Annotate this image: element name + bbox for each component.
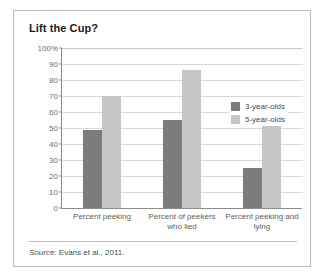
bar-3-year-olds bbox=[163, 120, 182, 208]
chart-plot-wrapper: 100%9080706050403020100 Percent peekingP… bbox=[14, 42, 312, 228]
source-note: Source: Evans et al., 2011. bbox=[29, 248, 124, 257]
y-axis-tick-label: 100% bbox=[38, 44, 58, 53]
page-title: Lift the Cup? bbox=[29, 22, 98, 34]
y-axis-tick-label: 20 bbox=[49, 172, 58, 181]
y-axis-tick-label: 80 bbox=[49, 76, 58, 85]
bar-5-year-olds bbox=[262, 112, 281, 208]
y-axis-tick-label: 30 bbox=[49, 156, 58, 165]
figure-container: Lift the Cup? 100%9080706050403020100 Pe… bbox=[13, 10, 311, 267]
legend-item-3-year-olds: 3-year-olds bbox=[231, 102, 285, 111]
y-axis-tick-label: 60 bbox=[49, 108, 58, 117]
x-axis-label: Percent of peekers who lied bbox=[142, 212, 222, 232]
legend-item-5-year-olds: 5-year-olds bbox=[231, 115, 285, 124]
y-axis-tick-label: 50 bbox=[49, 124, 58, 133]
y-axis-tick-label: 90 bbox=[49, 60, 58, 69]
bar-3-year-olds bbox=[243, 168, 262, 208]
bar-group bbox=[62, 48, 142, 208]
y-axis-tick-label: 0 bbox=[54, 204, 58, 213]
legend-label-3-year-olds: 3-year-olds bbox=[245, 102, 285, 111]
y-axis-tick-label: 40 bbox=[49, 140, 58, 149]
y-axis-tick-label: 10 bbox=[49, 188, 58, 197]
source-citation: Evans et al., 2011. bbox=[57, 248, 125, 257]
legend-swatch-3-year-olds bbox=[231, 102, 240, 111]
x-axis-labels: Percent peekingPercent of peekers who li… bbox=[62, 212, 302, 232]
x-axis-label: Percent peeking and lying bbox=[222, 212, 302, 232]
bar-5-year-olds bbox=[102, 96, 121, 208]
legend-label-5-year-olds: 5-year-olds bbox=[245, 115, 285, 124]
chart-plot-area: 100%9080706050403020100 bbox=[61, 48, 302, 209]
bar-5-year-olds bbox=[182, 70, 201, 208]
y-axis-tick-label: 70 bbox=[49, 92, 58, 101]
source-label: Source: bbox=[29, 248, 57, 257]
x-axis-label: Percent peeking bbox=[62, 212, 142, 232]
chart-legend: 3-year-olds 5-year-olds bbox=[229, 100, 288, 126]
bar-group bbox=[222, 48, 302, 208]
bar-group bbox=[142, 48, 222, 208]
legend-swatch-5-year-olds bbox=[231, 115, 240, 124]
source-divider bbox=[28, 241, 297, 242]
bar-3-year-olds bbox=[83, 130, 102, 208]
bar-series-layer bbox=[62, 48, 302, 208]
